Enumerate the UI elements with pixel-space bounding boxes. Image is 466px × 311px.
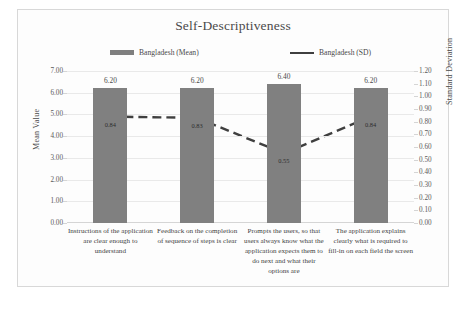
y-axis-tick-label: 0.00 <box>50 219 63 227</box>
y2-axis-tick-label: 0.50 <box>419 156 432 164</box>
y-axis-tick-label: 4.00 <box>50 132 63 140</box>
y2-axis-tick <box>414 109 418 110</box>
y2-axis-tick-label: 0.30 <box>419 181 432 189</box>
bar <box>180 88 214 223</box>
plot-area: 0.001.002.003.004.005.006.007.000.000.10… <box>67 71 414 223</box>
y2-axis-title: Standard Deviation <box>445 38 454 105</box>
y-axis-tick-label: 2.00 <box>50 176 63 184</box>
y2-axis-tick-label: 0.10 <box>419 206 432 214</box>
y2-axis-tick-label: 0.80 <box>419 118 432 126</box>
y2-axis-tick <box>414 147 418 148</box>
y-axis-tick-label: 3.00 <box>50 154 63 162</box>
sd-value-label: 0.84 <box>365 121 376 128</box>
y-axis-tick <box>63 180 67 181</box>
bar-value-label: 6.40 <box>277 72 290 81</box>
legend-bar-swatch-icon <box>110 50 134 55</box>
y2-axis-tick <box>414 223 418 224</box>
y2-axis-tick <box>414 122 418 123</box>
x-axis-category-labels: Instructions of the application are clea… <box>67 226 414 284</box>
sd-value-label: 0.55 <box>278 157 289 164</box>
x-axis-category-label: Instructions of the application are clea… <box>67 226 153 256</box>
y2-axis-tick-label: 1.10 <box>419 80 432 88</box>
sd-value-label: 0.84 <box>105 121 116 128</box>
y-axis-tick <box>63 223 67 224</box>
bar <box>267 84 301 223</box>
y2-axis-tick-label: 0.60 <box>419 143 432 151</box>
y-axis-tick-label: 1.00 <box>50 197 63 205</box>
y2-axis-tick-label: 0.70 <box>419 130 432 138</box>
legend-label-mean: Bangladesh (Mean) <box>139 48 199 57</box>
y-axis-tick-label: 5.00 <box>50 110 63 118</box>
y2-axis-tick <box>414 210 418 211</box>
y2-axis-tick <box>414 71 418 72</box>
y2-axis-tick-label: 1.20 <box>419 67 432 75</box>
y-axis-tick-label: 7.00 <box>50 67 63 75</box>
bar-value-label: 6.20 <box>104 76 117 85</box>
bar-value-label: 6.20 <box>191 76 204 85</box>
legend-item-mean: Bangladesh (Mean) <box>110 48 199 57</box>
x-axis-category-label: The application explains clearly what is… <box>328 226 414 256</box>
chart-title: Self-Descriptiveness <box>18 18 448 34</box>
y-axis-tick <box>63 114 67 115</box>
y-axis-tick <box>63 93 67 94</box>
y2-axis-tick <box>414 172 418 173</box>
y-axis-tick <box>63 136 67 137</box>
bar-value-label: 6.20 <box>364 76 377 85</box>
y2-axis-tick-label: 0.90 <box>419 105 432 113</box>
legend-item-sd: Bangladesh (SD) <box>290 48 371 57</box>
y2-axis-tick-label: 1.00 <box>419 92 432 100</box>
y2-axis-tick-label: 0.40 <box>419 168 432 176</box>
x-axis-category-label: Prompts the users, so that users always … <box>241 226 327 276</box>
y-axis-title: Mean Value <box>32 109 41 150</box>
y2-axis-tick <box>414 198 418 199</box>
y2-axis-tick <box>414 96 418 97</box>
y2-axis-tick <box>414 160 418 161</box>
bar <box>93 88 127 223</box>
sd-value-label: 0.83 <box>192 122 203 129</box>
bar <box>354 88 388 223</box>
y2-axis-tick <box>414 84 418 85</box>
chart-container: Self-Descriptiveness Bangladesh (Mean) B… <box>17 9 449 287</box>
y-axis-tick <box>63 201 67 202</box>
y2-axis-tick-label: 0.00 <box>419 219 432 227</box>
y-axis-tick <box>63 71 67 72</box>
y2-axis-tick <box>414 134 418 135</box>
y-axis-tick <box>63 158 67 159</box>
legend-label-sd: Bangladesh (SD) <box>319 48 371 57</box>
y2-axis-tick-label: 0.20 <box>419 194 432 202</box>
legend-line-swatch-icon <box>290 52 314 54</box>
y2-axis-tick <box>414 185 418 186</box>
chart-legend: Bangladesh (Mean) Bangladesh (SD) <box>18 48 448 64</box>
y-axis-tick-label: 6.00 <box>50 89 63 97</box>
gridline <box>67 71 414 72</box>
x-axis-category-label: Feedback on the completion of sequence o… <box>154 226 240 246</box>
